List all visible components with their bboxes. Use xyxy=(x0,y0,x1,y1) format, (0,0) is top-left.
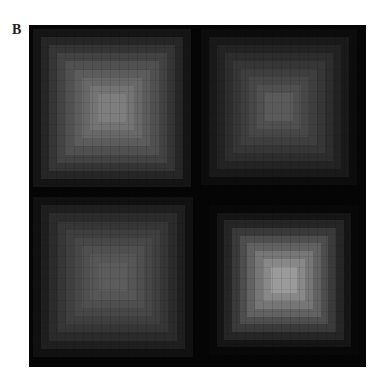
quadrant-bottom-right xyxy=(209,205,359,355)
concentric-squares-figure xyxy=(29,25,366,367)
intensity-ring xyxy=(99,263,128,292)
quadrant-top-right xyxy=(201,29,357,185)
panel-label: B xyxy=(12,22,21,38)
quadrant-bottom-left xyxy=(33,197,193,357)
intensity-ring xyxy=(265,93,293,121)
quadrant-top-left xyxy=(33,29,191,187)
intensity-ring xyxy=(271,267,298,294)
intensity-ring xyxy=(98,94,126,122)
